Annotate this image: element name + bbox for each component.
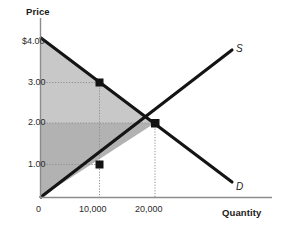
x-tick-label-10000: 10,000: [79, 205, 107, 214]
equilibrium-point-marker: [151, 119, 160, 128]
y-tick-label-1: 1.00: [28, 160, 46, 169]
x-tick-label-20000: 20,000: [135, 205, 163, 214]
y-axis-title: Price: [26, 7, 50, 17]
supply-point-marker-1dollar: [96, 161, 104, 169]
y-tick-label-2: 2.00: [28, 118, 46, 127]
supply-curve-label: S: [236, 44, 243, 54]
y-tick-label-4: $4.00: [22, 37, 45, 46]
demand-curve-label: D: [236, 182, 243, 192]
demand-point-marker-3dollar: [96, 79, 104, 87]
producer-surplus-region: [41, 123, 155, 197]
supply-demand-chart: Price Quantity $4.00 3.00 2.00 1.00 0 10…: [0, 0, 281, 231]
x-axis-title: Quantity: [222, 208, 261, 218]
chart-canvas: [0, 0, 281, 231]
y-tick-label-3: 3.00: [28, 78, 46, 87]
x-tick-label-0: 0: [36, 205, 41, 214]
